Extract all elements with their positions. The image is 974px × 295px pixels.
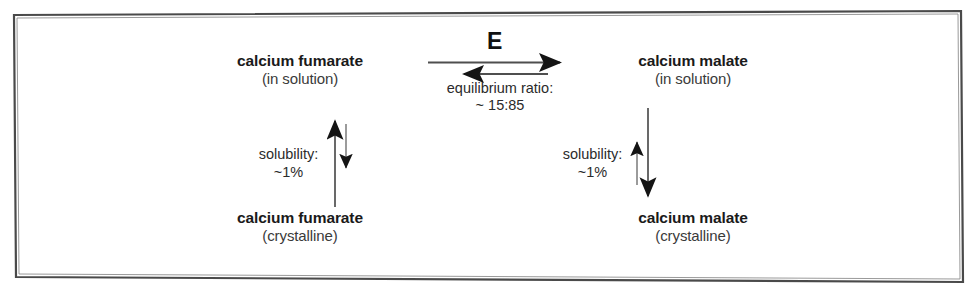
node-calcium-malate-solution: calcium malate (in solution) [578, 52, 808, 88]
equilibrium-ratio-value: ~ 15:85 [405, 97, 595, 114]
node-title: calcium fumarate [180, 52, 420, 70]
figure-canvas: calcium fumarate (in solution) calcium m… [0, 0, 974, 295]
node-subtitle: (in solution) [578, 70, 808, 88]
node-calcium-fumarate-crystalline: calcium fumarate (crystalline) [180, 209, 420, 245]
solubility-label-left: solubility: ~1% [236, 145, 341, 181]
equilibrium-ratio-label: equilibrium ratio: ~ 15:85 [405, 80, 595, 115]
node-calcium-fumarate-solution: calcium fumarate (in solution) [180, 52, 420, 88]
solubility-label-right: solubility: ~1% [540, 145, 645, 181]
node-title: calcium malate [578, 52, 808, 70]
solubility-value: ~1% [540, 163, 645, 181]
node-subtitle: (in solution) [180, 70, 420, 88]
solubility-caption: solubility: [540, 145, 645, 163]
solubility-caption: solubility: [236, 145, 341, 163]
node-title: calcium fumarate [180, 209, 420, 227]
solubility-value: ~1% [236, 163, 341, 181]
node-title: calcium malate [578, 209, 808, 227]
catalyst-label: E [455, 28, 535, 56]
node-calcium-malate-crystalline: calcium malate (crystalline) [578, 209, 808, 245]
node-subtitle: (crystalline) [578, 227, 808, 245]
equilibrium-caption: equilibrium ratio: [447, 80, 553, 96]
node-subtitle: (crystalline) [180, 227, 420, 245]
